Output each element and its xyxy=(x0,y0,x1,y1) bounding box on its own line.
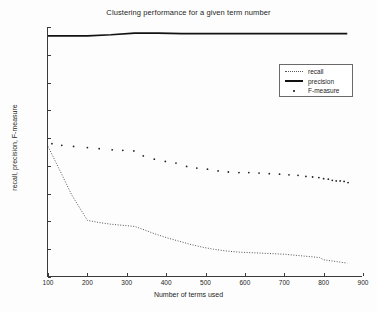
data-point xyxy=(73,146,75,148)
data-point xyxy=(327,178,329,180)
legend-label: recall xyxy=(305,68,324,75)
x-tick-label: 500 xyxy=(192,279,220,286)
data-point xyxy=(312,176,314,178)
x-tick-mark xyxy=(48,273,49,276)
x-tick-label: 400 xyxy=(152,279,180,286)
y-tick-mark xyxy=(48,110,51,111)
chart-legend: recall precision F-measure xyxy=(279,64,353,97)
series-f-measure xyxy=(51,143,349,184)
data-point xyxy=(258,172,260,174)
x-tick-label: 900 xyxy=(349,279,377,286)
data-point xyxy=(164,161,166,163)
data-point xyxy=(51,143,53,145)
data-point xyxy=(335,180,337,182)
x-tick-label: 300 xyxy=(113,279,141,286)
x-tick-mark xyxy=(206,273,207,276)
legend-item-recall: recall xyxy=(283,67,349,77)
chart-title: Clustering performance for a given term … xyxy=(0,8,377,17)
x-tick-mark xyxy=(87,273,88,276)
legend-item-f-measure: F-measure xyxy=(283,86,349,96)
data-point xyxy=(227,171,229,173)
x-tick-label: 600 xyxy=(231,279,259,286)
x-tick-label: 200 xyxy=(73,279,101,286)
data-point xyxy=(297,174,299,176)
data-point xyxy=(248,172,250,174)
x-tick-mark xyxy=(324,273,325,276)
y-tick-mark xyxy=(48,55,51,56)
data-point xyxy=(288,174,290,176)
data-point xyxy=(186,166,188,168)
data-point xyxy=(175,162,177,164)
x-tick-label: 100 xyxy=(34,279,62,286)
data-point xyxy=(318,177,320,179)
y-tick-mark xyxy=(48,83,51,84)
dot-marker-key xyxy=(283,86,305,95)
data-point xyxy=(142,155,144,157)
x-axis-label: Number of terms used xyxy=(0,291,377,298)
data-point xyxy=(238,172,240,174)
data-point xyxy=(207,168,209,170)
data-point xyxy=(122,149,124,151)
series-precision xyxy=(48,33,347,36)
legend-label: F-measure xyxy=(305,87,339,94)
x-tick-mark xyxy=(166,273,167,276)
data-point xyxy=(61,144,63,146)
y-tick-mark xyxy=(48,221,51,222)
y-tick-mark xyxy=(48,166,51,167)
y-axis-label: recall, precision, F-measure xyxy=(11,48,18,248)
data-point xyxy=(343,181,345,183)
solid-line-key xyxy=(283,77,305,86)
data-point xyxy=(217,170,219,172)
x-tick-label: 700 xyxy=(270,279,298,286)
x-tick-label: 800 xyxy=(310,279,338,286)
chart-figure: Clustering performance for a given term … xyxy=(0,0,377,312)
data-point xyxy=(111,149,113,151)
data-point xyxy=(133,150,135,152)
series-recall xyxy=(48,146,347,263)
data-point xyxy=(305,176,307,178)
data-point xyxy=(323,178,325,180)
data-point xyxy=(339,180,341,182)
y-tick-mark xyxy=(48,138,51,139)
data-point xyxy=(268,173,270,175)
data-point xyxy=(331,179,333,181)
data-point xyxy=(98,148,100,150)
data-point xyxy=(347,182,349,184)
x-tick-mark xyxy=(363,273,364,276)
data-point xyxy=(153,158,155,160)
x-tick-mark xyxy=(245,273,246,276)
y-tick-mark xyxy=(48,277,51,278)
data-point xyxy=(196,167,198,169)
legend-label: precision xyxy=(305,78,334,85)
y-tick-mark xyxy=(48,27,51,28)
x-tick-mark xyxy=(127,273,128,276)
y-tick-mark xyxy=(48,194,51,195)
legend-item-precision: precision xyxy=(283,77,349,87)
dotted-line-key xyxy=(283,67,305,76)
data-point xyxy=(86,147,88,149)
x-tick-mark xyxy=(284,273,285,276)
y-tick-mark xyxy=(48,249,51,250)
data-point xyxy=(279,173,281,175)
